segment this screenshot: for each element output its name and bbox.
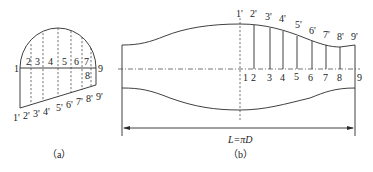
development-diagram: 1 2 3 4 5 6 7 8 9 1' 2' 3' 4' 5' 6' 7' 8… xyxy=(0,0,373,172)
label-b-1p: 1' xyxy=(236,8,243,19)
label-a-8p: 8' xyxy=(86,93,93,104)
label-a-4: 4 xyxy=(48,56,53,67)
label-b-2p: 2' xyxy=(250,8,257,19)
label-a-1p: 1' xyxy=(13,112,20,123)
label-b-4p: 4' xyxy=(279,13,286,24)
label-a-3p: 3' xyxy=(33,108,40,119)
label-a-5p: 5' xyxy=(56,102,63,113)
top-curve xyxy=(122,24,355,47)
dimension-label: L=πD xyxy=(227,134,253,145)
caption-b: （b） xyxy=(228,149,253,160)
caption-a: （a） xyxy=(47,149,71,160)
label-b-4: 4 xyxy=(280,72,285,83)
arrow-right-icon xyxy=(347,126,354,130)
label-b-6: 6 xyxy=(308,72,313,83)
figure-b: 1' 2' 3' 4' 5' 6' 7' 8' 9' 1 2 3 4 5 6 7… xyxy=(118,8,362,160)
label-b-9: 9 xyxy=(357,72,362,83)
label-b-6p: 6' xyxy=(309,25,316,36)
label-a-2p: 2' xyxy=(23,110,30,121)
label-a-3: 3 xyxy=(35,56,40,67)
label-a-8: 8 xyxy=(85,70,90,81)
label-b-8p: 8' xyxy=(337,31,344,42)
label-a-9: 9 xyxy=(98,63,103,74)
bottom-curve xyxy=(122,88,355,110)
label-b-2: 2 xyxy=(251,72,256,83)
label-b-5: 5 xyxy=(294,71,299,82)
label-a-2: 2 xyxy=(26,56,31,67)
label-a-7p: 7' xyxy=(76,96,83,107)
label-b-5p: 5' xyxy=(295,19,302,30)
label-a-7: 7 xyxy=(84,56,89,67)
label-b-3p: 3' xyxy=(265,11,272,22)
label-b-1: 1 xyxy=(243,72,248,83)
figure-a: 1 2 3 4 5 6 7 8 9 1' 2' 3' 4' 5' 6' 7' 8… xyxy=(13,28,103,160)
label-a-6p: 6' xyxy=(66,99,73,110)
label-b-7: 7 xyxy=(323,72,328,83)
label-b-9p: 9' xyxy=(351,31,358,42)
arrow-left-icon xyxy=(123,126,130,130)
label-a-1: 1 xyxy=(14,63,19,74)
label-b-3: 3 xyxy=(267,72,272,83)
label-b-7p: 7' xyxy=(323,29,330,40)
label-a-4p: 4' xyxy=(43,106,50,117)
label-a-9p: 9' xyxy=(96,91,103,102)
label-a-5: 5 xyxy=(62,56,67,67)
label-a-6: 6 xyxy=(74,56,79,67)
label-b-8: 8 xyxy=(337,72,342,83)
